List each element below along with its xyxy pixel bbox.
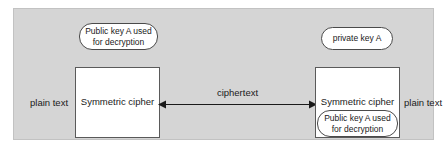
plain-text-label-right: plain text	[404, 97, 442, 108]
public-key-callout-right: Public key A used for decryption	[317, 110, 398, 137]
symmetric-cipher-label-left: Symmetric cipher	[76, 96, 159, 107]
bidirectional-arrow-icon	[158, 99, 317, 110]
plain-text-label-left: plain text	[30, 97, 68, 108]
diagram-panel: plain text Symmetric cipher Public key A…	[13, 8, 434, 140]
private-key-callout-right: private key A	[321, 27, 393, 50]
ciphertext-connector: ciphertext	[158, 95, 317, 112]
diagram-screenshot: plain text Symmetric cipher Public key A…	[0, 0, 446, 150]
public-key-callout-left: Public key A used for decryption	[79, 23, 158, 50]
ciphertext-label: ciphertext	[158, 87, 317, 98]
symmetric-cipher-label-right: Symmetric cipher	[316, 96, 399, 107]
symmetric-cipher-box-left: Symmetric cipher	[75, 67, 160, 138]
